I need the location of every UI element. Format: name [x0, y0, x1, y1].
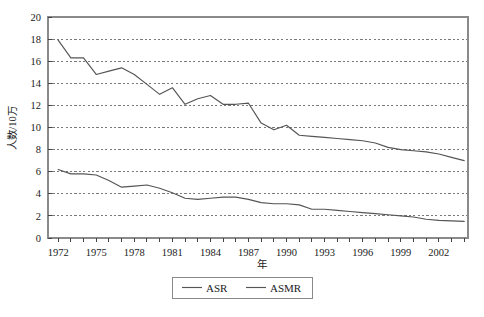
y-tick-label-6: 6 [36, 166, 41, 177]
legend-label-asmr: ASMR [270, 282, 302, 294]
x-tick-label-1972: 1972 [48, 247, 69, 258]
y-axis-title-group: 人数/10万 [6, 106, 18, 149]
y-tick-label-12: 12 [31, 100, 42, 111]
y-axis-title: 人数/10万 [6, 106, 18, 149]
chart-background [0, 0, 484, 317]
y-tick-label-14: 14 [31, 78, 42, 89]
legend-label-asr: ASR [206, 282, 228, 294]
y-tick-label-8: 8 [36, 144, 41, 155]
x-tick-label-1978: 1978 [124, 247, 145, 258]
y-tick-label-10: 10 [31, 122, 42, 133]
chart-legend: ASRASMR [172, 277, 312, 298]
x-tick-label-1990: 1990 [276, 247, 297, 258]
x-axis-title-group: 年 [257, 258, 267, 270]
y-tick-label-0: 0 [36, 233, 41, 244]
y-tick-label-2: 2 [36, 211, 41, 222]
x-tick-label-1984: 1984 [200, 247, 222, 258]
x-tick-label-1981: 1981 [162, 247, 183, 258]
y-tick-label-16: 16 [31, 56, 42, 67]
y-tick-label-20: 20 [31, 12, 42, 23]
x-tick-label-1975: 1975 [86, 247, 107, 258]
y-tick-label-4: 4 [36, 188, 42, 199]
y-tick-label-18: 18 [31, 34, 42, 45]
chart-figure: 02468101214161820 1972197519781981198419… [0, 0, 484, 317]
x-axis-title: 年 [257, 258, 267, 270]
x-tick-label-1996: 1996 [352, 247, 373, 258]
x-tick-label-2002: 2002 [428, 247, 449, 258]
x-tick-label-1993: 1993 [314, 247, 335, 258]
x-tick-label-1999: 1999 [390, 247, 411, 258]
x-tick-label-1987: 1987 [238, 247, 259, 258]
line-chart-svg: 02468101214161820 1972197519781981198419… [0, 0, 484, 317]
